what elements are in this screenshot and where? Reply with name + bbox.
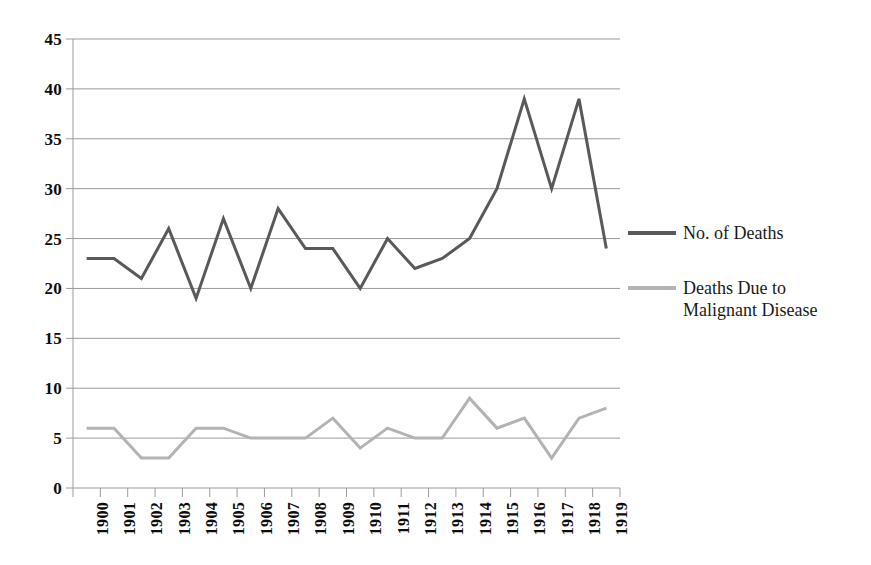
x-axis-tick-label: 1907 bbox=[286, 502, 302, 535]
x-axis-tick-label: 1915 bbox=[505, 502, 521, 535]
x-axis-tick-label: 1919 bbox=[614, 502, 630, 535]
x-axis-tick-label: 1913 bbox=[450, 502, 466, 535]
legend-label-line2: Malignant Disease bbox=[683, 299, 817, 322]
x-axis-tick-label: 1905 bbox=[231, 502, 247, 535]
legend-label: Deaths Due to Malignant Disease bbox=[683, 277, 817, 322]
x-axis-tick-label: 1900 bbox=[95, 502, 111, 535]
x-axis-tick-label: 1901 bbox=[122, 502, 138, 535]
series-line-2 bbox=[87, 398, 607, 458]
legend-item-no-of-deaths[interactable]: No. of Deaths bbox=[628, 222, 868, 245]
x-axis-tick-label: 1916 bbox=[532, 502, 548, 535]
legend-swatch-icon bbox=[628, 286, 676, 290]
legend-swatch-icon bbox=[628, 231, 676, 235]
x-axis-tick-label: 1917 bbox=[560, 502, 576, 535]
x-axis-tick-label: 1904 bbox=[204, 502, 220, 535]
x-axis-tick-label: 1912 bbox=[423, 502, 439, 535]
x-axis-tick-label: 1903 bbox=[177, 502, 193, 535]
x-axis-tick-label: 1914 bbox=[478, 502, 494, 535]
chart-legend: No. of Deaths Deaths Due to Malignant Di… bbox=[628, 222, 868, 354]
legend-label-line1: Deaths Due to bbox=[683, 278, 786, 298]
series-lines bbox=[87, 99, 607, 458]
legend-label: No. of Deaths bbox=[683, 222, 783, 245]
x-axis-tick-label: 1906 bbox=[259, 502, 275, 535]
legend-item-malignant-disease[interactable]: Deaths Due to Malignant Disease bbox=[628, 277, 868, 322]
chart-container: 051015202530354045 190019011902190319041… bbox=[0, 0, 871, 565]
plot-area: 051015202530354045 190019011902190319041… bbox=[0, 0, 640, 520]
series-line-1 bbox=[87, 99, 607, 299]
x-axis-tick-label: 1910 bbox=[368, 502, 384, 535]
gridlines bbox=[73, 39, 620, 438]
x-axis-ticks bbox=[73, 488, 620, 497]
x-axis-tick-label: 1908 bbox=[313, 502, 329, 535]
x-axis-tick-label: 1909 bbox=[341, 502, 357, 535]
x-axis-tick-label: 1902 bbox=[149, 502, 165, 535]
x-axis-tick-labels: 1900190119021903190419051906190719081909… bbox=[0, 0, 640, 90]
x-axis-tick-label: 1918 bbox=[587, 502, 603, 535]
x-axis-tick-label: 1911 bbox=[396, 502, 412, 534]
